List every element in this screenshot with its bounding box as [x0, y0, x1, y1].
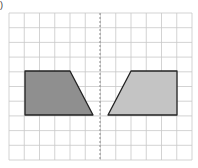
- reflection-grid-diagram: [0, 0, 198, 168]
- original-trapezoid: [25, 71, 93, 115]
- reflected-trapezoid: [108, 71, 177, 115]
